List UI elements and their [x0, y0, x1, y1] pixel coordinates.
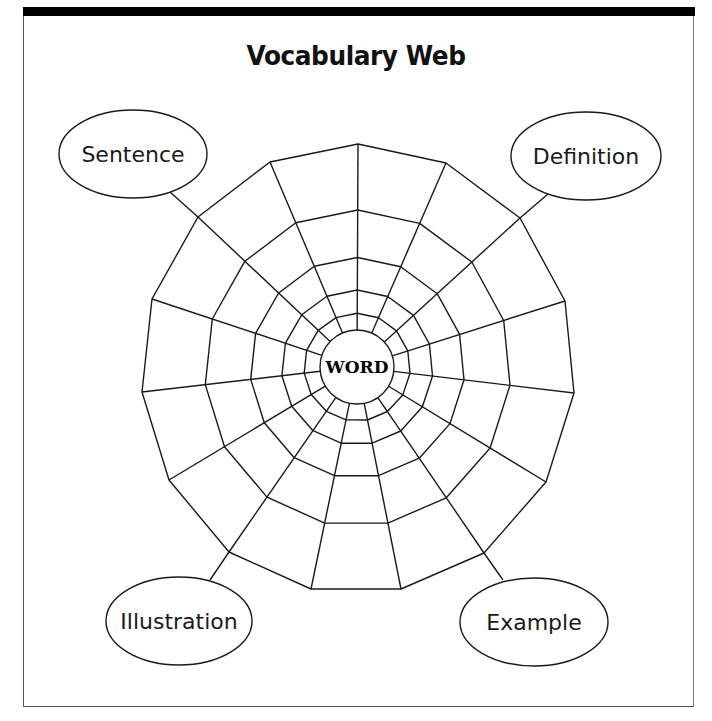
oval-definition: Definition [511, 112, 661, 218]
oval-illustration: Illustration [106, 552, 252, 665]
web-spoke [270, 162, 343, 333]
web-spoke [378, 398, 484, 553]
concept-ovals: SentenceDefinitionIllustrationExample [59, 110, 661, 666]
oval-example: Example [460, 553, 608, 666]
web-spoke [198, 217, 330, 342]
oval-label: Definition [533, 144, 640, 169]
vocabulary-web-diagram: SentenceDefinitionIllustrationExample WO… [0, 0, 712, 721]
web-spoke [152, 299, 322, 355]
web-spoke [142, 371, 320, 392]
web-spoke [364, 403, 401, 589]
connector-line [170, 192, 198, 217]
web-spoke [169, 386, 325, 480]
connector-line [484, 553, 503, 580]
oval-label: Example [486, 610, 581, 635]
oval-sentence: Sentence [59, 110, 207, 217]
web-spoke [384, 218, 520, 342]
web-spoke [357, 144, 358, 330]
web-spoke [392, 301, 565, 356]
oval-label: Sentence [81, 142, 184, 167]
web-spoke [372, 163, 446, 333]
center-word: WORD [325, 357, 389, 377]
oval-label: Illustration [120, 609, 237, 634]
connector-line [520, 194, 548, 218]
web-spoke [229, 397, 336, 552]
center-word-label: WORD [325, 357, 389, 377]
web-spoke [311, 403, 349, 589]
web-spoke [394, 371, 574, 393]
web-spoke [389, 386, 546, 482]
connector-line [210, 552, 229, 580]
